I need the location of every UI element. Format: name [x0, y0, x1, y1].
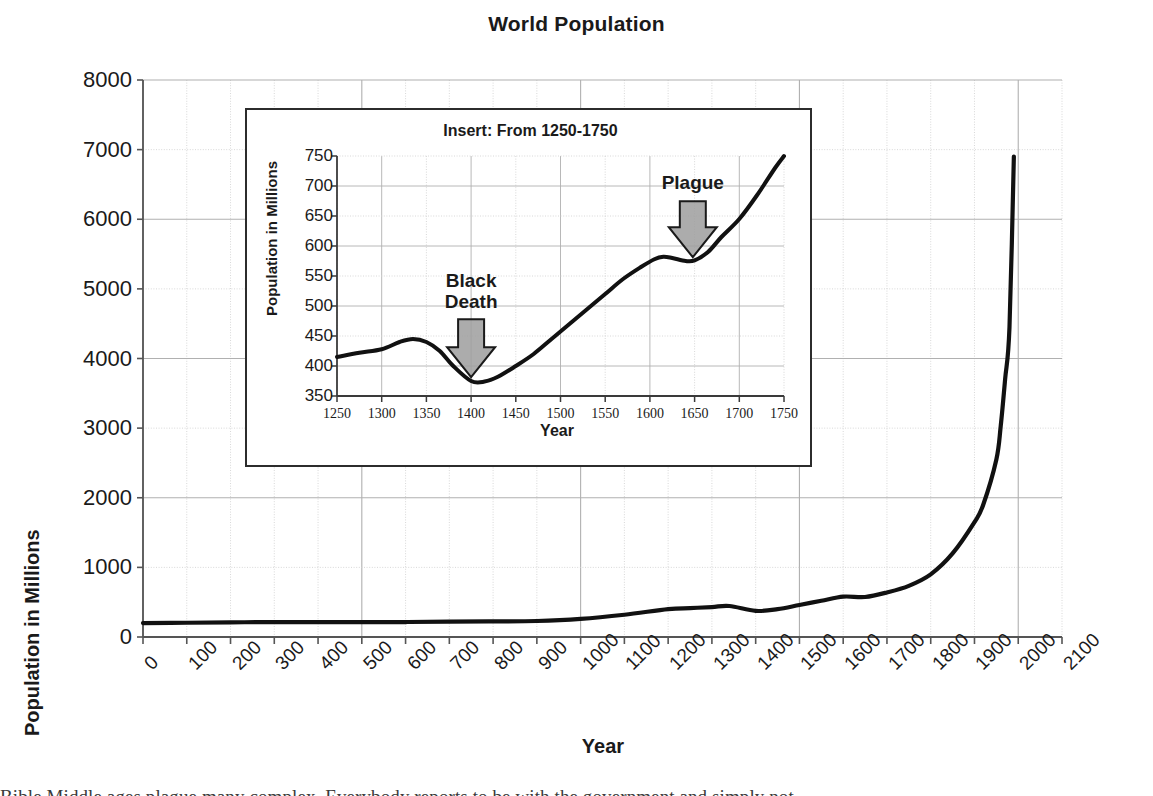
- main-x-tick-label: 900: [534, 637, 572, 675]
- main-x-tick-label: 1600: [840, 629, 885, 674]
- inset-annotation-label-2: Plague: [662, 173, 724, 194]
- annotation-label-line-2: Death: [445, 292, 498, 313]
- inset-panel: Insert: From 1250-1750 35040045050055060…: [245, 108, 812, 467]
- world-population-figure: World Population 01000200030004000500060…: [0, 0, 1153, 796]
- main-x-tick-label: 1700: [884, 629, 929, 674]
- main-x-tick-label: 1300: [709, 629, 754, 674]
- main-x-tick-label: 300: [271, 637, 309, 675]
- main-x-tick-label: 1800: [928, 629, 973, 674]
- page-caption-sliver: Bible Middle ages plague many complex. E…: [0, 786, 1153, 796]
- main-x-tick-label: 2100: [1059, 629, 1104, 674]
- main-x-tick-label: 500: [359, 637, 397, 675]
- main-x-tick-label: 200: [228, 637, 266, 675]
- main-x-tick-label: 1900: [971, 629, 1016, 674]
- main-x-tick-label: 600: [403, 637, 441, 675]
- main-x-tick-label: 0: [140, 652, 163, 675]
- inset-annotation-labels: BlackDeathPlague: [247, 110, 814, 469]
- main-x-tick-label: 100: [184, 637, 222, 675]
- main-x-tick-label: 1200: [665, 629, 710, 674]
- main-x-tick-label: 1100: [621, 630, 665, 674]
- main-x-tick-label: 1500: [796, 629, 841, 674]
- main-x-tick-label: 1000: [578, 629, 623, 674]
- inset-annotation-label-1: BlackDeath: [445, 271, 498, 312]
- main-x-tick-label: 400: [315, 637, 353, 675]
- annotation-label-line-1: Black: [445, 271, 498, 292]
- main-x-axis-title: Year: [143, 735, 1063, 758]
- main-x-tick-label: 700: [446, 637, 484, 675]
- annotation-label-line-1: Plague: [662, 173, 724, 194]
- main-x-tick-label: 1400: [753, 629, 798, 674]
- main-x-tick-label: 2000: [1015, 629, 1060, 674]
- main-x-tick-label: 800: [490, 637, 528, 675]
